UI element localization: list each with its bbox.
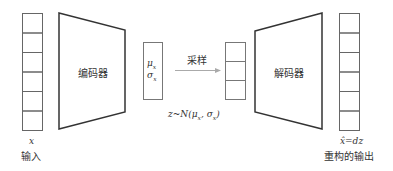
sigma-subscript: x	[153, 75, 156, 82]
decoder-label: 解码器	[274, 65, 304, 80]
output-label: 重构的输出	[324, 148, 374, 163]
input-symbol: x	[29, 136, 34, 146]
mu-label: μx	[147, 58, 156, 70]
distribution-formula: z~N(μx, σx)	[168, 109, 220, 121]
output-vector	[340, 14, 360, 131]
sampling-label: 采样	[187, 52, 207, 67]
sampling-arrow	[175, 68, 221, 73]
latent-z-vector	[226, 43, 246, 100]
mu-subscript: x	[153, 63, 156, 70]
formula-close: )	[216, 109, 220, 119]
formula-start: z~N(μ	[168, 109, 198, 119]
formula-mid: , σ	[201, 109, 213, 119]
input-label: 输入	[21, 148, 41, 163]
sigma-label: σx	[147, 70, 157, 82]
encoder-label: 编码器	[78, 65, 108, 80]
input-vector	[23, 14, 43, 131]
output-symbol: x̂=dz	[340, 136, 363, 146]
diagram-canvas	[0, 0, 393, 171]
